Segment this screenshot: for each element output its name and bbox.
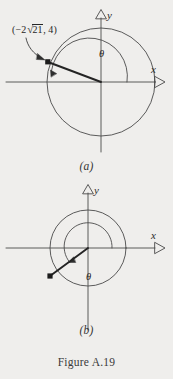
point-coordinate-label-a: (−2√21, 4): [12, 23, 57, 36]
figure-panel-a: x y θ (−2√21, 4) (a): [0, 0, 173, 182]
y-axis-arrowhead-a: [96, 10, 106, 19]
terminal-ray-a: [48, 62, 101, 82]
y-axis-arrowhead-b: [83, 185, 93, 194]
y-axis-label-b: y: [93, 184, 99, 196]
panel-caption-b: (b): [0, 324, 173, 336]
x-axis-label-b: x: [150, 229, 156, 241]
x-axis-arrowhead-b: [155, 243, 165, 254]
panel-caption-a: (a): [0, 160, 173, 172]
theta-label-a: θ: [99, 48, 104, 59]
sqrt-radicand-a: 21: [32, 24, 43, 36]
figure-caption: Figure A.19: [0, 356, 173, 368]
theta-label-b: θ: [86, 271, 91, 282]
leader-arrowhead-a: [37, 54, 46, 61]
diagram-b: x y θ: [0, 182, 173, 347]
theta-arc-a: [52, 38, 128, 82]
sqrt-group-a: √21: [26, 23, 43, 36]
point-marker-a: [45, 59, 50, 64]
x-axis-label-a: x: [150, 63, 156, 75]
point-marker-b: [47, 273, 52, 278]
figure-sheet: x y θ (−2√21, 4) (a): [0, 0, 173, 379]
coord-prefix-a: (−2: [12, 24, 26, 35]
figure-panel-b: x y θ (−4, −3) (b): [0, 182, 173, 347]
coord-suffix-a: , 4): [43, 24, 57, 35]
y-axis-label-a: y: [106, 9, 112, 21]
terminal-ray-b: [50, 248, 88, 276]
theta-arc-arrowhead-a: [51, 70, 57, 77]
x-axis-arrowhead-a: [155, 77, 165, 88]
